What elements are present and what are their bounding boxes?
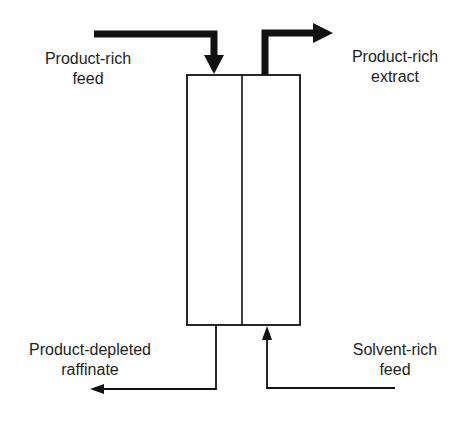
label-solvent-rich-feed: Solvent-rich feed <box>340 340 450 380</box>
extraction-column <box>187 75 300 325</box>
label-product-depleted-raffinate: Product-depleted raffinate <box>12 340 168 380</box>
label-product-rich-extract: Product-rich extract <box>335 47 455 87</box>
label-product-rich-feed: Product-rich feed <box>28 49 148 89</box>
product-rich-extract-arrow <box>265 23 333 75</box>
